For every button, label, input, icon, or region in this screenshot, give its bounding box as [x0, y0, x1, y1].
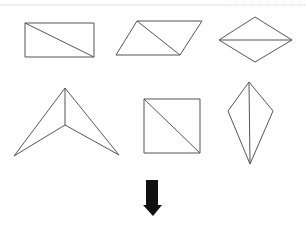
- square-diagonal: [144, 99, 200, 153]
- diagram-svg: [0, 0, 305, 226]
- shape-parallelogram: [116, 21, 202, 55]
- shape-rhombus: [219, 17, 292, 62]
- parallelogram-diagonal: [137, 21, 180, 55]
- diagram-canvas: [0, 0, 305, 226]
- dart-outline: [14, 88, 119, 156]
- kite-diagonal: [249, 82, 250, 164]
- shape-dart: [14, 88, 119, 156]
- shape-rectangle: [25, 23, 94, 57]
- rectangle-diagonal: [25, 23, 94, 57]
- shape-square: [144, 99, 200, 153]
- kite-outline: [228, 82, 273, 164]
- down-arrow-icon: [143, 180, 162, 216]
- shape-kite: [228, 82, 273, 164]
